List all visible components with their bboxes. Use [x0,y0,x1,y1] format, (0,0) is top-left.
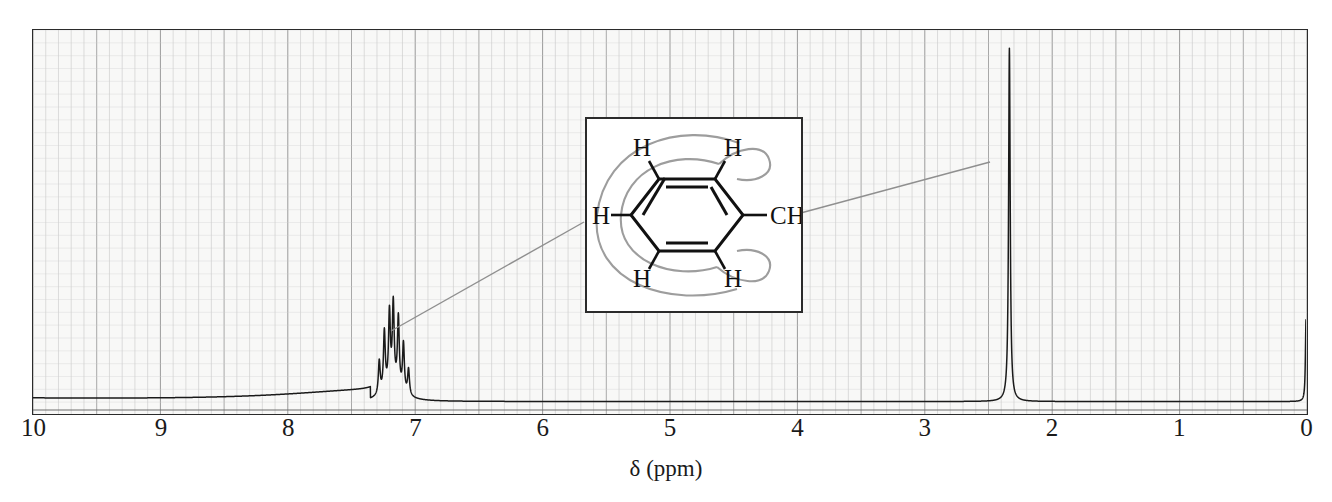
nmr-figure: H H H H H CH3 109876543210 δ (ppm) [0,0,1332,502]
x-tick-5: 5 [664,415,677,440]
structure-inset: H H H H H CH3 [585,117,803,313]
x-axis-title: δ (ppm) [630,456,703,482]
x-tick-6: 6 [537,415,550,440]
label-h-top-left: H [633,134,651,161]
x-tick-8: 8 [282,415,295,440]
x-axis-ticks: 109876543210 [0,415,1332,427]
label-methyl: CH3 [770,202,801,235]
toluene-structure: H H H H H CH3 [587,119,801,311]
x-tick-4: 4 [791,415,804,440]
label-h-bottom-right: H [724,265,742,292]
x-tick-2: 2 [1046,415,1059,440]
x-tick-7: 7 [409,415,422,440]
x-tick-0: 0 [1300,415,1313,440]
ring-current-inner-loop [621,159,719,271]
x-tick-9: 9 [155,415,168,440]
label-h-bottom-left: H [633,265,651,292]
label-h-top-right: H [724,134,742,161]
label-methyl-main: CH [770,202,801,229]
x-tick-1: 1 [1173,415,1186,440]
label-h-left: H [592,202,610,229]
x-tick-3: 3 [918,415,931,440]
x-tick-10: 10 [21,415,46,440]
